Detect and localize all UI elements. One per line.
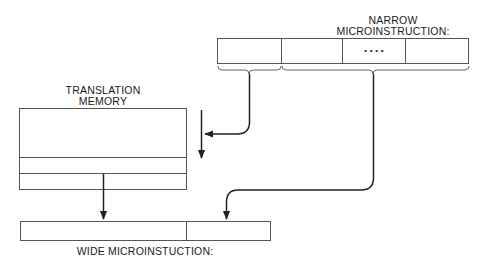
narrow-field-ellipsis: • • • • [343,45,405,57]
arrow-narrow-to-address [205,74,250,134]
diagram-canvas: NARROW MICROINSTRUCTION: • • • • TRANSLA… [0,0,487,264]
arrow-narrow-to-wide [227,74,374,219]
narrow-field-brace-right [282,66,469,74]
translation-memory-title-line2: MEMORY [19,95,187,107]
diagram-svg [0,0,487,264]
wide-title: WIDE MICROINSTUCTION: [20,245,270,257]
wide-microinstruction-box [21,222,271,241]
narrow-field-brace-left [218,66,281,74]
narrow-title-line2: MICROINSTRUCTION: [300,25,486,37]
